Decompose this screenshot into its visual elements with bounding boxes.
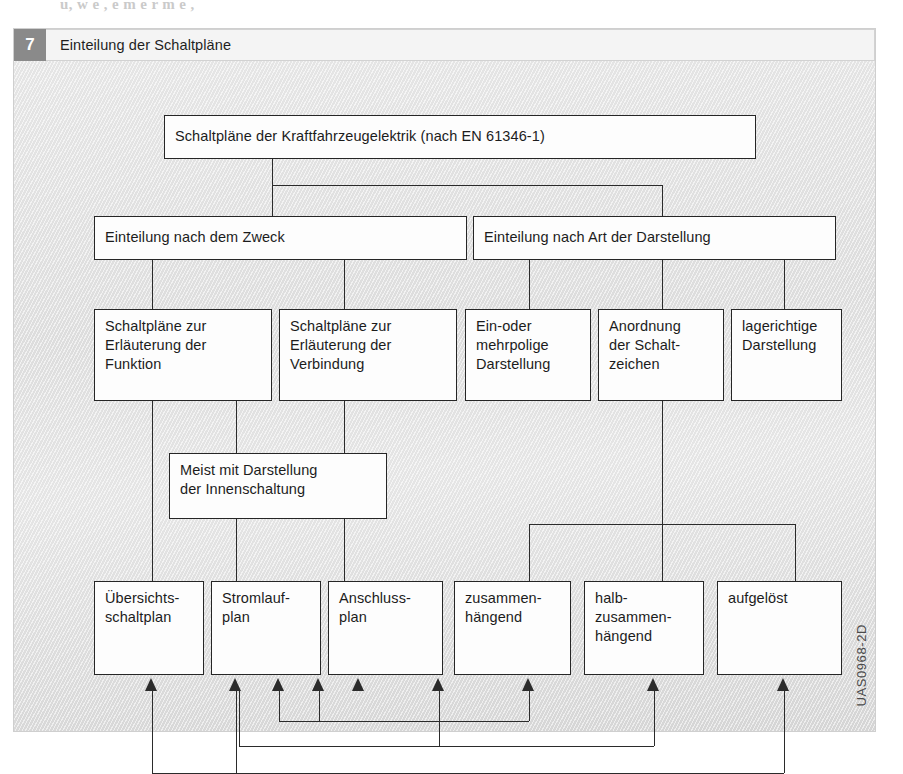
feedback-drop-c-left: [152, 691, 153, 773]
connector-root-stem: [272, 159, 273, 185]
node-root: Schaltpläne der Kraftfahrzeugelektrik (n…: [164, 115, 756, 159]
feedback-arrowhead-9: [777, 678, 789, 691]
connector-anordnung-to-zusammen: [529, 524, 530, 581]
connector-funktion-down: [152, 401, 153, 581]
connector-zweck-stem: [152, 260, 153, 309]
node-aufgeloest: aufgelöst: [717, 581, 842, 675]
feedback-arrowhead-8: [647, 678, 659, 691]
node-funktion: Schaltpläne zur Erläuterung der Funktion: [94, 309, 272, 401]
connector-root-to-zweck: [272, 185, 273, 216]
node-anschlussplan: Anschluss- plan: [328, 581, 443, 675]
figure-panel: 7 Einteilung der Schaltpläne Schaltpläne…: [14, 29, 875, 731]
hierarchy-diagram: Schaltpläne der Kraftfahrzeugelektrik (n…: [14, 61, 875, 731]
connector-anordnung-to-halb: [662, 524, 663, 581]
figure-source-code: UAS0968-2D: [854, 624, 869, 707]
connector-darstellung-to-lagericht: [784, 260, 785, 309]
feedback-arrowhead-7: [522, 678, 534, 691]
feedback-arrowhead-3: [272, 678, 284, 691]
connector-root-bus: [272, 185, 662, 186]
node-zusammenhaengend: zusammen- hängend: [454, 581, 571, 675]
feedback-arrowhead-4: [312, 678, 324, 691]
feedback-arrowhead-2: [229, 678, 241, 691]
figure-number-badge: 7: [14, 29, 46, 61]
node-lagericht: lagerichtige Darstellung: [731, 309, 842, 401]
feedback-drop-c-right: [784, 691, 785, 773]
feedback-drop-a-right: [529, 691, 530, 721]
feedback-arrowhead-5: [352, 678, 364, 691]
node-polig: Ein-oder mehrpolige Darstellung: [465, 309, 591, 401]
feedback-arrowhead-1: [145, 678, 157, 691]
feedback-drop-b-mid: [439, 691, 440, 746]
feedback-drop-c-mid: [236, 691, 237, 773]
feedback-drop-a-mid: [319, 691, 320, 721]
connector-verbindung-to-innen: [344, 401, 345, 453]
connector-root-to-darstellung: [662, 185, 663, 216]
figure-caption-field: Einteilung der Schaltpläne: [46, 29, 875, 61]
connector-innen-to-stromlauf: [236, 519, 237, 581]
connector-zweck-to-verbindung: [344, 260, 345, 309]
feedback-bus-tier-a: [279, 721, 529, 722]
connector-anordnung-stem: [662, 401, 663, 524]
feedback-drop-b-right: [654, 691, 655, 746]
feedback-drop-a-left: [279, 691, 280, 721]
figure-caption-title: Einteilung der Schaltpläne: [46, 37, 231, 53]
node-innenschaltung: Meist mit Darstellung der Innenschaltung: [169, 453, 387, 519]
connector-innen-to-anschluss: [344, 519, 345, 581]
feedback-arrowhead-6: [432, 678, 444, 691]
node-verbindung: Schaltpläne zur Erläuterung der Verbindu…: [279, 309, 457, 401]
connector-darstellung-to-anordnung: [662, 260, 663, 309]
node-halbzusammenhaengend: halb- zusammen- hängend: [584, 581, 704, 675]
node-stromlaufplan: Stromlauf- plan: [211, 581, 321, 675]
connector-darstellung-to-polig: [529, 260, 530, 309]
node-darstellung: Einteilung nach Art der Darstellung: [473, 216, 836, 260]
node-anordnung: Anordnung der Schalt- zeichen: [598, 309, 724, 401]
figure-caption-bar: 7 Einteilung der Schaltpläne: [14, 29, 875, 61]
connector-anordnung-to-aufgeloest: [795, 524, 796, 581]
node-uebersichtsschaltplan: Übersichts- schaltplan: [94, 581, 204, 675]
page-bleed-text: u, w e , e m e r m e ,: [60, 0, 560, 18]
node-zweck: Einteilung nach dem Zweck: [94, 216, 467, 260]
feedback-bus-tier-b: [239, 746, 654, 747]
feedback-drop-b-left: [239, 691, 240, 746]
connector-funktion-to-innen: [236, 401, 237, 453]
